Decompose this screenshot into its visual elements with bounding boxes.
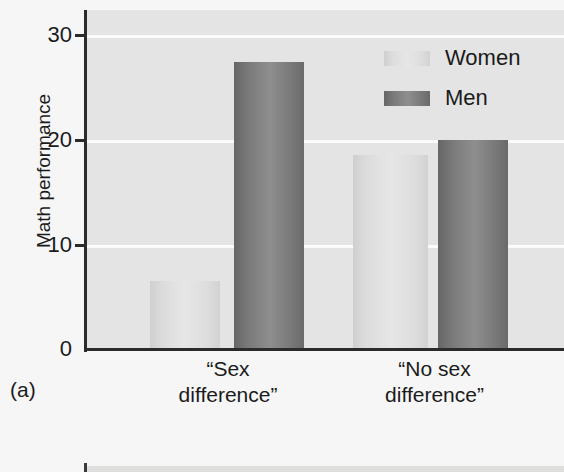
legend-label-women: Women bbox=[445, 47, 520, 69]
y-tick-mark-10 bbox=[75, 244, 86, 247]
y-tick-mark-20 bbox=[75, 139, 86, 142]
bar-women-no-sex-difference[interactable] bbox=[353, 155, 428, 350]
y-axis-line bbox=[84, 10, 87, 352]
legend: Women Men bbox=[384, 38, 554, 118]
legend-item-men[interactable]: Men bbox=[384, 78, 554, 118]
figure-panel-a-screenshot: 30 20 10 0 Math performance “Sex differe… bbox=[0, 0, 564, 472]
bar-women-sex-difference[interactable] bbox=[150, 281, 220, 350]
category-label-no-sex-difference-line1: “No sex bbox=[352, 356, 517, 382]
category-label-no-sex-difference: “No sex difference” bbox=[352, 356, 517, 407]
category-label-no-sex-difference-line2: difference” bbox=[352, 382, 517, 408]
legend-item-women[interactable]: Women bbox=[384, 38, 554, 78]
category-label-sex-difference: “Sex difference” bbox=[148, 356, 308, 407]
legend-swatch-men-icon bbox=[384, 91, 430, 106]
legend-swatch-women-icon bbox=[384, 51, 430, 66]
category-label-sex-difference-line2: difference” bbox=[148, 382, 308, 408]
bar-men-sex-difference[interactable] bbox=[234, 62, 304, 350]
y-tick-label-0: 0 bbox=[10, 338, 72, 360]
legend-label-men: Men bbox=[445, 87, 488, 109]
y-axis-title: Math performance bbox=[33, 41, 55, 301]
bar-men-no-sex-difference[interactable] bbox=[438, 140, 508, 350]
panel-b-y-axis-stub bbox=[84, 463, 87, 472]
panel-b-top-edge bbox=[84, 466, 564, 472]
y-tick-mark-30 bbox=[75, 34, 86, 37]
x-axis-line bbox=[84, 348, 564, 351]
category-label-sex-difference-line1: “Sex bbox=[148, 356, 308, 382]
panel-letter: (a) bbox=[10, 378, 36, 402]
bar-chart-panel-a: 30 20 10 0 Math performance “Sex differe… bbox=[0, 0, 564, 420]
